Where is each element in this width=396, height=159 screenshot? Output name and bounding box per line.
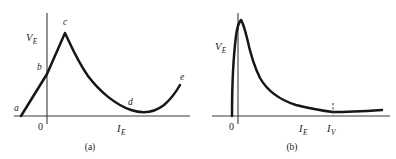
panel-b: VE 0 IE IV (b) <box>212 13 390 153</box>
panel-b-iv-label: IV <box>326 123 337 137</box>
panel-a: a b c d e VE 0 IE (a) <box>14 13 190 153</box>
panel-b-iv-label-subscript: V <box>331 129 337 137</box>
panel-a-origin-label: 0 <box>38 121 43 132</box>
panel-a-point-label-b: b <box>37 62 42 72</box>
panel-a-y-axis-label-subscript: E <box>32 38 38 46</box>
panel-a-point-label-c: c <box>63 17 68 27</box>
panel-a-characteristic-curve <box>21 33 180 116</box>
panel-b-characteristic-curve <box>232 20 382 116</box>
panel-a-point-label-e: e <box>180 72 184 82</box>
panel-b-x-axis-label-subscript: E <box>302 129 308 137</box>
panel-a-x-axis-label: IE <box>116 123 126 137</box>
panel-b-y-axis-label: VE <box>215 41 227 55</box>
panel-a-y-axis-label: VE <box>26 32 38 46</box>
panel-a-x-axis-label-subscript: E <box>120 129 126 137</box>
panel-b-origin-label: 0 <box>229 121 234 132</box>
panel-b-caption: (b) <box>286 142 297 153</box>
panel-a-point-label-a: a <box>14 103 19 113</box>
panel-b-x-axis-label: IE <box>298 123 308 137</box>
figure-canvas: a b c d e VE 0 IE (a) VE 0 IE IV (b) <box>0 0 396 159</box>
panel-b-y-axis-label-subscript: E <box>221 47 227 55</box>
panel-a-point-label-d: d <box>128 97 133 107</box>
panel-a-caption: (a) <box>85 142 96 153</box>
